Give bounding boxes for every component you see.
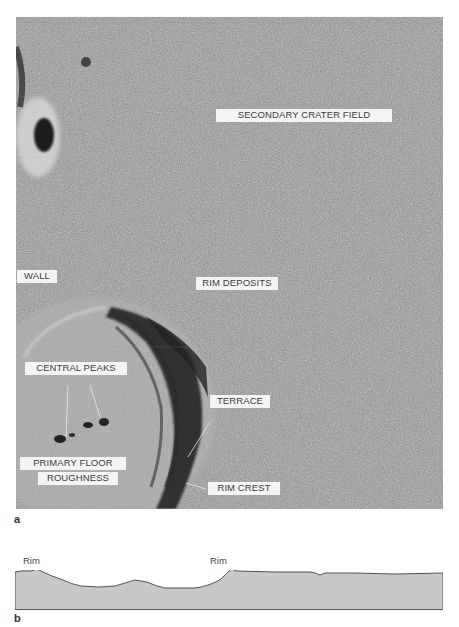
label-wall: WALL (17, 270, 57, 283)
label-secondary-crater-field: SECONDARY CRATER FIELD (216, 109, 392, 122)
panel-letter-a: a (14, 513, 20, 525)
rim-label-right: Rim (210, 555, 227, 566)
crater-photograph: SECONDARY CRATER FIELD WALL RIM DEPOSITS… (16, 17, 443, 509)
panel-letter-b: b (14, 612, 21, 624)
label-central-peaks: CENTRAL PEAKS (25, 362, 127, 375)
rim-label-left: Rim (23, 555, 40, 566)
crater-cross-section-profile (15, 570, 443, 610)
label-terrace: TERRACE (210, 395, 270, 408)
label-primary-floor: PRIMARY FLOOR (20, 457, 126, 470)
label-roughness: ROUGHNESS (38, 472, 118, 485)
label-rim-deposits: RIM DEPOSITS (196, 277, 278, 290)
crater-photo-texture (16, 17, 443, 509)
label-rim-crest: RIM CREST (208, 482, 280, 495)
